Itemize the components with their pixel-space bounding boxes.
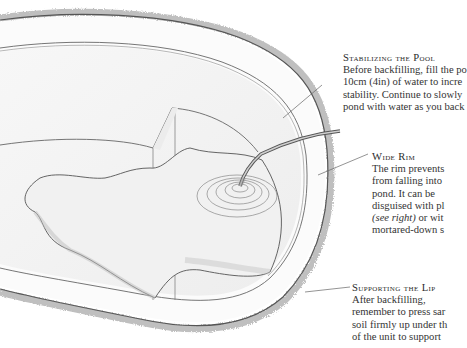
callout-line: soil firmly up under th <box>352 319 447 331</box>
callout-heading: Wide Rim <box>372 151 415 162</box>
callout-heading: Supporting the Lip <box>352 282 436 293</box>
cross-reference: (see right) <box>372 212 416 223</box>
callout-line: (see right) or wit <box>372 212 444 224</box>
callout-line: pond. It can be <box>372 188 444 200</box>
callout-line: The rim prevents <box>372 163 444 175</box>
callout-stabilizing-the-pool: Stabilizing the Pool Before backfilling,… <box>343 52 467 113</box>
callout-line: mortared-down s <box>372 224 444 236</box>
callout-line: After backfilling, <box>352 294 447 306</box>
callout-line-rest: or wit <box>416 212 444 223</box>
callout-supporting-the-lip: Supporting the Lip After backfilling, re… <box>352 282 447 343</box>
callout-line: remember to press sar <box>352 306 447 318</box>
callout-line: from falling into <box>372 175 444 187</box>
callout-line: of the unit to support <box>352 331 447 343</box>
callout-line: disguised with pl <box>372 200 444 212</box>
leader-supporting-lip <box>305 287 350 292</box>
callout-heading: Stabilizing the Pool <box>343 52 435 63</box>
callout-line: stability. Continue to slowly <box>343 89 467 101</box>
callout-line: pond with water as you back <box>343 101 467 113</box>
leader-wide-rim <box>318 154 368 175</box>
callout-line: Before backfilling, fill the po <box>343 64 467 76</box>
callout-line: 10cm (4in) of water to incre <box>343 76 467 88</box>
callout-wide-rim: Wide Rim The rim prevents from falling i… <box>372 151 444 236</box>
